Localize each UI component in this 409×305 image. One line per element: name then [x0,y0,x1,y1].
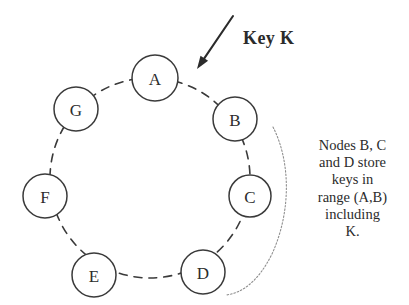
node-label: A [149,70,162,89]
node-label: E [89,267,99,286]
arrow-head-icon [197,56,208,69]
caption-line: and D store [300,154,405,171]
key-k-label: Key K [243,28,295,49]
node-group: ABCDEFG [23,55,271,297]
diagram-canvas: ABCDEFG Key K Nodes B, Cand D storekeys … [0,0,409,305]
node-label: F [40,188,49,207]
range-caption: Nodes B, Cand D storekeys inrange (A,B)i… [300,137,405,240]
node-g[interactable]: G [54,87,98,131]
node-b[interactable]: B [213,97,257,141]
node-label: G [70,101,82,120]
node-label: B [229,111,240,130]
caption-line: K. [300,223,405,240]
key-pointer-arrow [197,16,233,69]
caption-line: including [300,206,405,223]
node-c[interactable]: C [229,175,271,217]
node-label: C [244,188,255,207]
node-f[interactable]: F [23,174,67,218]
caption-line: range (A,B) [300,189,405,206]
node-d[interactable]: D [181,250,225,294]
caption-line: keys in [300,171,405,188]
node-e[interactable]: E [72,253,116,297]
node-label: D [197,264,209,283]
node-a[interactable]: A [132,55,178,101]
caption-line: Nodes B, C [300,137,405,154]
arrow-shaft [202,16,233,62]
